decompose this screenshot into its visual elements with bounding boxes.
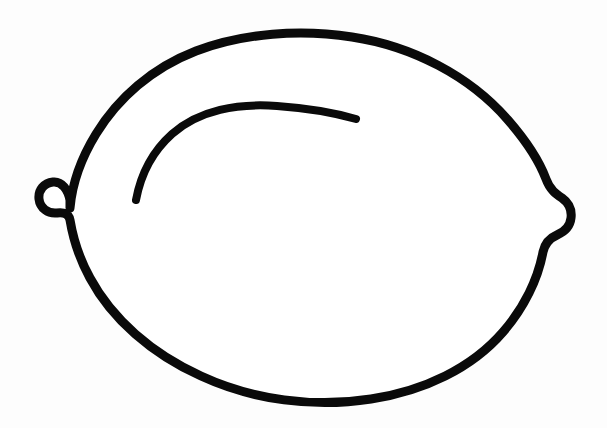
illustration-canvas: Lemon Outline Drawing Simple black outli… bbox=[0, 0, 607, 428]
lemon-drawing-svg bbox=[0, 0, 607, 428]
